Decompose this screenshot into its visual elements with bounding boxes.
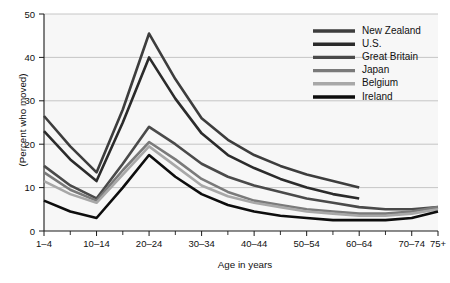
y-tick-label: 40 xyxy=(24,52,35,63)
x-tick-labels: 1–410–1420–2430–3440–4450–5460–6470–7475… xyxy=(36,238,446,249)
y-axis-title: (Percent who moved) xyxy=(17,73,28,166)
legend-label: Japan xyxy=(362,64,389,75)
legend-label: Belgium xyxy=(362,77,398,88)
x-tick-label: 60–64 xyxy=(346,238,372,249)
x-tick-label: 1–4 xyxy=(36,238,52,249)
x-tick-label: 70–74 xyxy=(399,238,425,249)
line-chart: 01020304050 1–410–1420–2430–3440–4450–54… xyxy=(0,0,450,283)
y-tick-label: 0 xyxy=(30,226,35,237)
x-tick-label: 20–24 xyxy=(136,238,162,249)
chart-figure: 01020304050 1–410–1420–2430–3440–4450–54… xyxy=(0,0,450,283)
x-tick-label: 75+ xyxy=(430,238,447,249)
x-tick-label: 10–14 xyxy=(83,238,109,249)
x-axis xyxy=(44,231,438,236)
legend-label: U.S. xyxy=(362,38,381,49)
legend-label: Great Britain xyxy=(362,51,418,62)
y-axis xyxy=(39,14,44,231)
legend-label: New Zealand xyxy=(362,25,421,36)
x-tick-label: 50–54 xyxy=(293,238,319,249)
legend-label: Ireland xyxy=(362,91,393,102)
y-tick-label: 10 xyxy=(24,182,35,193)
y-tick-label: 50 xyxy=(24,9,35,20)
x-tick-label: 30–34 xyxy=(188,238,214,249)
x-axis-title: Age in years xyxy=(218,259,273,270)
x-tick-label: 40–44 xyxy=(241,238,267,249)
